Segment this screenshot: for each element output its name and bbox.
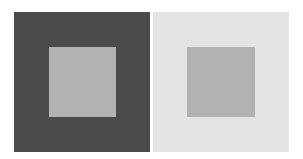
gray-square-on-light [187,47,255,117]
gray-square-on-dark [49,47,116,117]
light-background-square [153,12,289,152]
dark-background-square [14,12,150,152]
